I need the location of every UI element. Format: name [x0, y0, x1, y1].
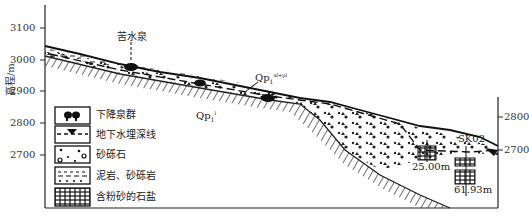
unit-label-upper: Qp1al+pl	[255, 72, 287, 85]
borehole-label: SK02	[458, 133, 485, 144]
depth-label-25m: 25.00m	[412, 161, 450, 172]
left-tick-2900: 2900	[10, 86, 35, 96]
legend-label-salt: 含粉砂的石盐	[96, 191, 156, 203]
spring-name-label: 苦水泉	[117, 28, 147, 43]
left-y-axis	[40, 5, 45, 208]
spring-marker	[194, 80, 206, 87]
left-tick-2700: 2700	[10, 150, 35, 160]
legend-label-spring: 下降泉群	[96, 109, 136, 121]
left-tick-2800: 2800	[10, 118, 35, 128]
left-tick-3000: 3000	[10, 55, 35, 65]
spring-kushui	[124, 42, 138, 71]
cross-section-diagram	[0, 0, 529, 216]
legend-box-salt	[55, 188, 90, 206]
legend-label-gravel: 砂砾石	[96, 149, 126, 161]
spring-marker	[261, 94, 275, 102]
right-tick-2800: 2800	[504, 112, 529, 122]
depth-label-61m: 61.93m	[454, 184, 492, 195]
unit-label-lower: Qp1l	[196, 110, 216, 123]
right-y-axis	[498, 97, 503, 208]
left-tick-3100: 3100	[10, 23, 35, 33]
legend-label-water-table: 地下水埋深线	[96, 129, 156, 141]
right-tick-2700: 2700	[504, 145, 529, 155]
legend-label-mudstone: 泥岩、砂砾岩	[96, 170, 156, 182]
legend	[55, 107, 90, 206]
